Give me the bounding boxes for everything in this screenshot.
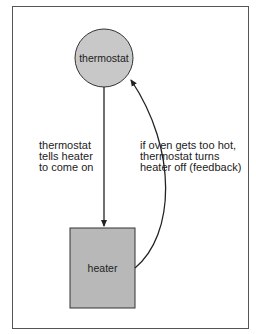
feedback-edge-label: if oven gets too hot, thermostat turns h… [140, 140, 241, 173]
heater-label: heater [70, 262, 135, 274]
thermostat-label: thermostat [75, 52, 133, 64]
control-edge-label: thermostat tells heater to come on [39, 140, 93, 173]
feedback-arrow [131, 80, 166, 268]
